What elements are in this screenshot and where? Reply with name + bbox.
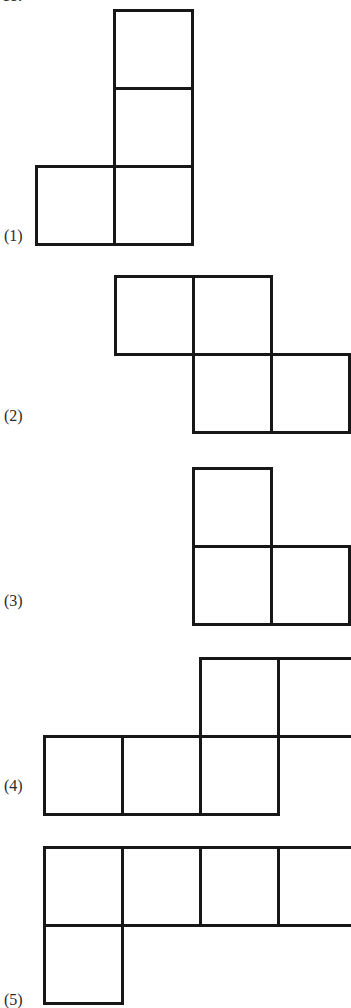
shape-5-square-3 xyxy=(200,847,278,925)
shape-2-square-2 xyxy=(193,276,271,354)
shape-label-5: (5) xyxy=(4,992,23,1008)
shape-4-net[interactable] xyxy=(44,658,351,814)
shape-1-square-1 xyxy=(114,10,192,88)
shape-label-3: (3) xyxy=(4,593,23,609)
shape-5-square-4 xyxy=(278,847,351,925)
shape-2-square-1 xyxy=(115,276,193,354)
shape-5-net[interactable] xyxy=(44,847,351,1003)
shape-3-square-1 xyxy=(193,468,271,546)
shape-label-4: (4) xyxy=(4,778,23,794)
shape-4-square-4 xyxy=(122,736,200,814)
shape-5-square-1 xyxy=(44,847,122,925)
shape-1-square-2 xyxy=(114,88,192,166)
shape-4-square-2 xyxy=(278,658,351,736)
shape-1-net[interactable] xyxy=(36,10,192,244)
shape-4-square-5 xyxy=(200,736,278,814)
shape-2-square-4 xyxy=(271,354,349,432)
shape-2-net[interactable] xyxy=(115,276,349,432)
shape-3-net[interactable] xyxy=(193,468,349,624)
shape-label-1: (1) xyxy=(4,228,23,244)
shape-2-square-3 xyxy=(193,354,271,432)
shape-4-square-1 xyxy=(200,658,278,736)
shape-4-square-3 xyxy=(44,736,122,814)
shape-3-square-3 xyxy=(271,546,349,624)
shape-1-square-4 xyxy=(114,166,192,244)
shape-1-square-3 xyxy=(36,166,114,244)
shape-label-2: (2) xyxy=(4,408,23,424)
shape-5-square-5 xyxy=(44,925,122,1003)
shape-3-square-2 xyxy=(193,546,271,624)
shape-5-square-2 xyxy=(122,847,200,925)
